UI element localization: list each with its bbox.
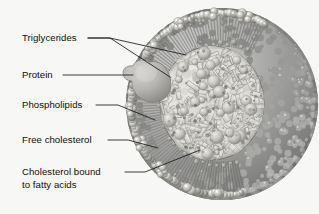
label-triglycerides: Triglycerides xyxy=(22,32,77,43)
label-line-1: Phospholipids xyxy=(22,99,83,110)
label-line-1: Cholesterol bound xyxy=(22,166,101,177)
figure-canvas: TriglyceridesProteinPhospholipidsFree ch… xyxy=(0,0,319,214)
label-line-1: Triglycerides xyxy=(22,32,77,43)
label-line-1: Protein xyxy=(22,69,53,80)
label-phospholipids: Phospholipids xyxy=(22,99,83,110)
label-line-1: Free cholesterol xyxy=(22,134,92,145)
label-line-2: to fatty acids xyxy=(22,179,77,190)
label-protein: Protein xyxy=(22,69,53,80)
lipoprotein-diagram: TriglyceridesProteinPhospholipidsFree ch… xyxy=(0,0,319,214)
label-free-cholesterol: Free cholesterol xyxy=(22,134,92,145)
